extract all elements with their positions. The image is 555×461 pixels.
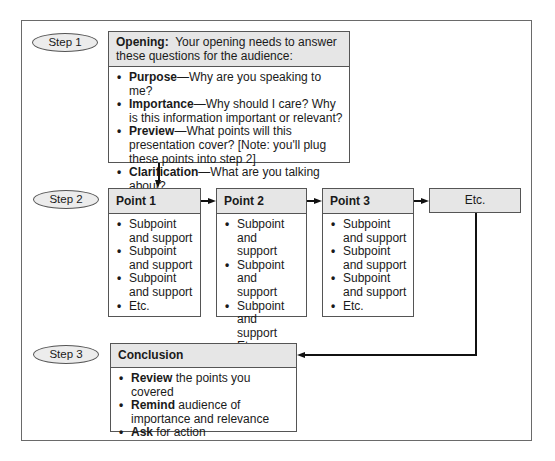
connector-line — [304, 354, 477, 356]
subpoint-item: Subpoint and support — [117, 245, 194, 272]
subpoint-item: Subpoint and support — [225, 218, 300, 259]
etc-box: Etc. — [429, 188, 521, 213]
arrow-right-icon — [314, 198, 322, 204]
subpoint-item: Subpoint and support — [225, 259, 300, 300]
conclusion-item: Ask for action — [119, 426, 290, 440]
point-2-box: Point 2 Subpoint and support Subpoint an… — [216, 188, 307, 317]
point-3-title: Point 3 — [323, 189, 413, 214]
conclusion-item: Review the points you covered — [119, 372, 290, 399]
conclusion-title: Conclusion — [111, 344, 296, 368]
conclusion-box: Conclusion Review the points you covered… — [110, 343, 297, 432]
point-3-box: Point 3 Subpoint and support Subpoint an… — [322, 188, 414, 317]
point-2-list: Subpoint and support Subpoint and suppor… — [217, 214, 306, 354]
subpoint-item: Subpoint and support — [117, 272, 194, 299]
opening-box: Opening: Your opening needs to answer th… — [108, 31, 350, 163]
point-1-list: Subpoint and support Subpoint and suppor… — [109, 214, 200, 313]
arrow-right-icon — [421, 198, 429, 204]
step-1-label: Step 1 — [32, 33, 98, 52]
arrow-down-icon — [155, 180, 161, 188]
opening-title: Opening: — [116, 35, 169, 49]
step-3-label: Step 3 — [33, 345, 99, 364]
subpoint-item: Subpoint and support — [331, 272, 407, 299]
opening-item: Purpose—Why are you speaking to me? — [117, 71, 343, 98]
connector-line — [475, 213, 477, 355]
arrow-left-icon — [297, 352, 305, 358]
subpoint-item: Etc. — [117, 300, 194, 314]
conclusion-item: Remind audience of importance and releva… — [119, 399, 290, 426]
opening-item: Importance—Why should I care? Why is thi… — [117, 98, 343, 125]
point-2-title: Point 2 — [217, 189, 306, 214]
subpoint-item: Subpoint and support — [331, 245, 407, 272]
point-1-title: Point 1 — [109, 189, 200, 214]
connector-line — [158, 163, 160, 181]
point-1-box: Point 1 Subpoint and support Subpoint an… — [108, 188, 201, 317]
opening-list: Purpose—Why are you speaking to me? Impo… — [109, 67, 349, 193]
opening-header: Opening: Your opening needs to answer th… — [109, 32, 349, 67]
subpoint-item: Subpoint and support — [117, 218, 194, 245]
subpoint-item: Etc. — [331, 300, 407, 314]
subpoint-item: Subpoint and support — [331, 218, 407, 245]
conclusion-list: Review the points you covered Remind aud… — [111, 368, 296, 440]
step-2-label: Step 2 — [33, 190, 99, 209]
opening-item: Preview—What points will this presentati… — [117, 125, 343, 166]
subpoint-item: Subpoint and support — [225, 300, 300, 341]
point-3-list: Subpoint and support Subpoint and suppor… — [323, 214, 413, 313]
arrow-right-icon — [208, 198, 216, 204]
